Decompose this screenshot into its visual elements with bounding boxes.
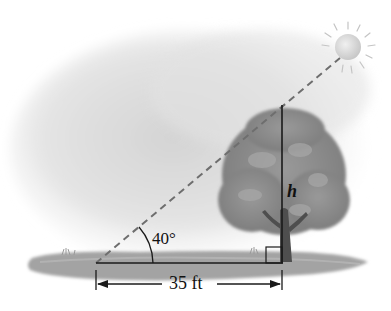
- angle-label: 40°: [152, 229, 176, 249]
- diagram-canvas: 40° h 35 ft: [0, 0, 391, 311]
- base-length-label: 35 ft: [166, 273, 206, 294]
- diagram-graphic: [0, 0, 391, 311]
- height-label: h: [287, 181, 297, 202]
